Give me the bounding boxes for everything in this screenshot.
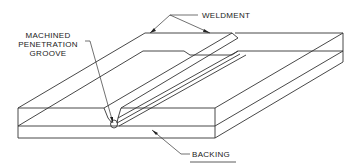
plate-rear-edge — [143, 51, 343, 55]
backing-leader — [152, 130, 190, 154]
groove-leader — [85, 41, 113, 123]
backing-right-diag — [215, 62, 343, 138]
weldment-label: WELDMENT — [202, 11, 250, 20]
plate-right-top-diag — [215, 33, 343, 108]
backing-label: BACKING — [192, 150, 230, 159]
penetration-groove-root — [111, 120, 118, 128]
weldment-drawing — [0, 0, 362, 168]
backing-front — [18, 126, 215, 138]
plate-right-mid-diag — [215, 51, 343, 126]
groove-label: MACHINED PENETRATION GROOVE — [14, 31, 82, 58]
plate-top-right-edge — [235, 33, 343, 62]
